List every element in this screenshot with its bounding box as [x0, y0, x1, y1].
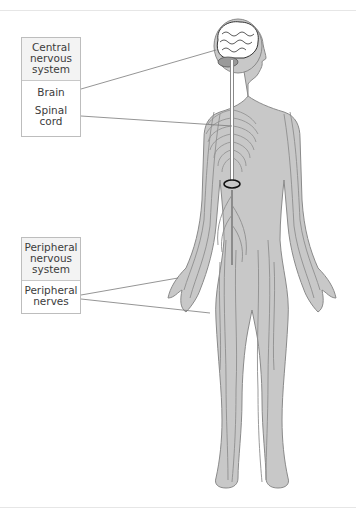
brain-leader-line	[81, 50, 216, 89]
body-silhouette	[168, 19, 336, 488]
human-body-figure	[0, 0, 356, 519]
peripheral-nerves-leader-line-hand	[81, 278, 178, 295]
